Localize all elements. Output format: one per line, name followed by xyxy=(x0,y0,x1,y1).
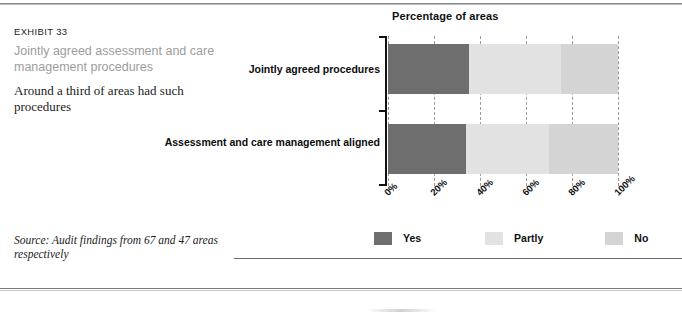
bottom-divider xyxy=(0,288,682,289)
legend-swatch-partly xyxy=(485,232,503,245)
table-row[interactable] xyxy=(388,44,618,94)
exhibit-page: EXHIBIT 33 Jointly agreed assessment and… xyxy=(0,0,682,317)
legend-item-partly[interactable]: Partly xyxy=(485,232,543,245)
legend-swatch-yes xyxy=(374,232,392,245)
page-artifact xyxy=(366,309,436,312)
table-row[interactable] xyxy=(388,124,618,174)
legend-item-no[interactable]: No xyxy=(605,232,648,245)
stacked-bar-chart: Percentage of areas Jointly agreed proce… xyxy=(0,0,682,317)
y-axis-tick-middle xyxy=(379,110,386,112)
legend-label-no: No xyxy=(634,232,648,244)
chart-divider xyxy=(234,258,682,259)
legend-swatch-no xyxy=(605,232,623,245)
gridline-100 xyxy=(618,36,619,186)
bar-segment-no[interactable] xyxy=(549,124,618,174)
bar-segment-partly[interactable] xyxy=(466,124,549,174)
plot-area xyxy=(388,36,618,186)
legend-item-yes[interactable]: Yes xyxy=(374,232,421,245)
category-label-1: Jointly agreed procedures xyxy=(160,63,380,76)
bar-segment-yes[interactable] xyxy=(388,124,466,174)
bottom-divider-light xyxy=(0,290,682,291)
bar-segment-yes[interactable] xyxy=(388,44,469,94)
y-axis-tick-top xyxy=(379,36,386,38)
chart-legend: YesPartlyNo xyxy=(374,231,648,245)
category-label-2: Assessment and care management aligned xyxy=(160,136,380,149)
chart-title: Percentage of areas xyxy=(392,10,498,22)
legend-label-partly: Partly xyxy=(514,232,543,244)
bar-segment-partly[interactable] xyxy=(469,44,561,94)
x-axis-tick-labels: 0%20%40%60%80%100% xyxy=(388,190,633,220)
bar-segment-no[interactable] xyxy=(561,44,619,94)
legend-label-yes: Yes xyxy=(403,232,421,244)
